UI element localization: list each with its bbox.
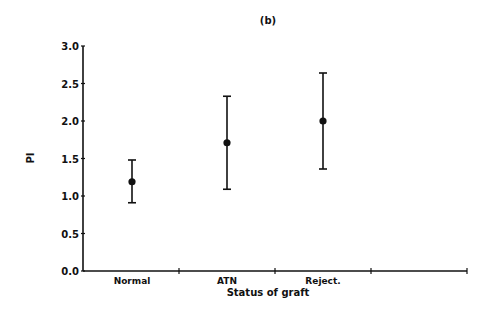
y-tick-label: 3.0: [61, 41, 79, 52]
chart-title: (b): [260, 15, 276, 26]
y-axis: 0.00.51.01.52.02.53.0: [61, 41, 85, 277]
error-bar-point: [223, 96, 231, 189]
data-points: [128, 73, 327, 203]
x-axis-label: Status of graft: [227, 287, 310, 298]
y-tick-label: 1.0: [61, 191, 79, 202]
y-tick-label: 0.0: [61, 266, 79, 277]
error-bar-chart: (b) 0.00.51.01.52.02.53.0 NormalATNRejec…: [0, 0, 489, 317]
x-tick-label: ATN: [217, 276, 237, 286]
y-tick-label: 2.0: [61, 116, 79, 127]
y-axis-label: PI: [25, 152, 36, 163]
y-tick-label: 0.5: [61, 229, 79, 240]
y-tick-label: 1.5: [61, 154, 79, 165]
x-axis: NormalATNReject.: [83, 268, 467, 286]
error-bar-point: [128, 160, 136, 203]
error-bar-point: [319, 73, 327, 169]
y-tick-label: 2.5: [61, 79, 79, 90]
x-tick-label: Reject.: [305, 276, 340, 286]
x-tick-label: Normal: [114, 276, 151, 286]
